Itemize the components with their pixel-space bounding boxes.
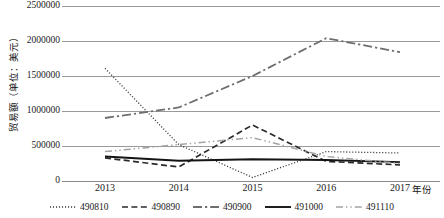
series-line-491000 xyxy=(105,157,400,163)
legend-item-490900[interactable]: 490900 xyxy=(193,202,252,212)
legend-swatch-490810 xyxy=(50,203,76,211)
x-tick-label-2017: 2017 xyxy=(390,182,410,193)
legend-swatch-491000 xyxy=(265,203,291,211)
x-tick-label-2013: 2013 xyxy=(95,182,115,193)
legend-label-491000: 491000 xyxy=(295,202,324,212)
legend-swatch-490900 xyxy=(193,203,219,211)
legend-item-491110[interactable]: 491110 xyxy=(336,202,394,212)
y-tick-label-0: 0 xyxy=(2,176,60,185)
x-tick-label-2015: 2015 xyxy=(243,182,263,193)
series-line-490900 xyxy=(105,38,400,118)
line-chart: 贸易额（单位：美元） 05000001000000150000020000002… xyxy=(0,0,444,218)
legend-label-490810: 490810 xyxy=(80,202,109,212)
y-tick-label-1000000: 1000000 xyxy=(2,106,60,115)
legend-swatch-490890 xyxy=(122,203,148,211)
y-axis-tick-labels: 05000001000000150000020000002500000 xyxy=(0,0,60,218)
y-tick-label-1500000: 1500000 xyxy=(2,71,60,80)
series-layer xyxy=(62,6,440,181)
legend-label-491110: 491110 xyxy=(366,202,394,212)
y-tick-label-2000000: 2000000 xyxy=(2,36,60,45)
x-tick-label-2016: 2016 xyxy=(316,182,336,193)
x-axis-title: 年份 xyxy=(412,182,432,196)
legend: 490810490890490900491000491110 xyxy=(0,198,444,216)
y-tick-label-2500000: 2500000 xyxy=(2,1,60,10)
legend-swatch-491110 xyxy=(336,203,362,211)
legend-item-491000[interactable]: 491000 xyxy=(265,202,324,212)
plot-area xyxy=(62,6,440,181)
legend-label-490900: 490900 xyxy=(223,202,252,212)
legend-label-490890: 490890 xyxy=(152,202,181,212)
y-tick-label-500000: 500000 xyxy=(2,141,60,150)
x-tick-label-2014: 2014 xyxy=(169,182,189,193)
legend-item-490890[interactable]: 490890 xyxy=(122,202,181,212)
x-axis-tick-labels: 20132014201520162017 xyxy=(62,182,440,196)
legend-item-490810[interactable]: 490810 xyxy=(50,202,109,212)
